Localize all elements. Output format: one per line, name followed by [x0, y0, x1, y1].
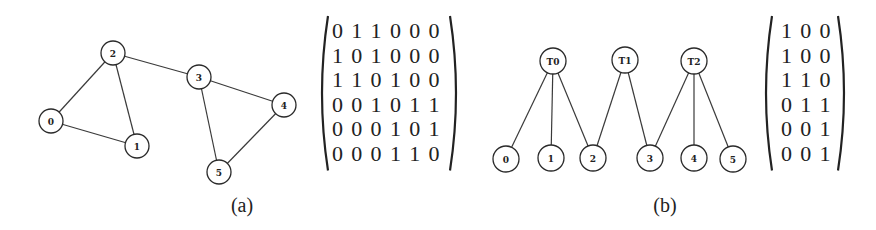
matrix-cell: 1 [351, 18, 362, 43]
node-label: 2 [110, 49, 116, 59]
right-paren [838, 16, 844, 171]
matrix-cell: 0 [409, 43, 420, 68]
matrix-cell: 0 [429, 18, 440, 43]
matrix-cell: 1 [429, 116, 440, 141]
matrix-cell: 0 [429, 141, 440, 166]
matrix-cell: 1 [371, 43, 382, 68]
matrix-cell: 1 [390, 67, 401, 92]
edge-T1-3 [625, 60, 650, 158]
matrix-cell: 0 [781, 116, 792, 141]
matrix-cell: 1 [800, 92, 811, 117]
matrix-cell: 0 [371, 141, 382, 166]
matrix-cell: 0 [800, 18, 811, 43]
matrix-cell: 1 [390, 141, 401, 166]
node-3: 3 [637, 145, 663, 171]
matrix-cell: 0 [781, 92, 792, 117]
node-1: 1 [125, 134, 149, 158]
node-label: 4 [281, 101, 287, 111]
node-4: 4 [272, 93, 296, 117]
matrix-cell: 0 [800, 141, 811, 166]
matrix-cell: 0 [371, 67, 382, 92]
matrix-cell: 0 [820, 18, 831, 43]
node-0: 0 [493, 146, 519, 172]
node-label: 3 [647, 154, 653, 164]
edge-T2-3 [650, 61, 694, 158]
matrix-cell: 0 [800, 43, 811, 68]
node-label: T1 [619, 56, 632, 66]
matrix-cell: 0 [781, 141, 792, 166]
matrix-cell: 0 [390, 18, 401, 43]
matrix-cell: 1 [781, 18, 792, 43]
edge-T0-2 [553, 61, 593, 158]
node-3: 3 [187, 65, 211, 89]
edge-0-1 [51, 121, 137, 146]
node-label: 2 [590, 154, 596, 164]
node-1: 1 [538, 145, 564, 171]
edge-4-5 [219, 105, 284, 172]
node-label: 5 [216, 168, 222, 178]
matrix-cell: 1 [429, 92, 440, 117]
matrix-cell: 0 [820, 43, 831, 68]
matrix-cell: 1 [820, 141, 831, 166]
edge-3-4 [199, 77, 284, 105]
edge-T1-2 [593, 60, 625, 158]
node-label: 0 [48, 117, 54, 127]
matrix-cell: 1 [332, 67, 343, 92]
matrix-cell: 1 [332, 43, 343, 68]
caption-a: (a) [231, 194, 253, 217]
matrix-cell: 1 [800, 67, 811, 92]
node-T0: T0 [540, 48, 566, 74]
edge-0-2 [51, 53, 113, 121]
matrix-cell: 1 [390, 116, 401, 141]
matrix-cell: 0 [371, 116, 382, 141]
matrix-cell: 1 [351, 67, 362, 92]
matrix-cell: 0 [820, 67, 831, 92]
matrix-cell: 0 [351, 43, 362, 68]
matrix-cell: 1 [371, 18, 382, 43]
node-label: T0 [547, 57, 560, 67]
graph-a-nodes: 012345 [39, 41, 296, 184]
edge-2-3 [113, 53, 199, 77]
matrix-cell: 0 [409, 67, 420, 92]
matrix-cell: 0 [332, 116, 343, 141]
matrix-cell: 1 [820, 116, 831, 141]
matrix-cell: 0 [390, 43, 401, 68]
matrix-cell: 0 [332, 18, 343, 43]
adjacency-matrix-a: 011000101000110100001011000101000110 [322, 16, 456, 171]
matrix-cell: 0 [332, 92, 343, 117]
graph-figure: 012345 011000101000110100001011000101000… [0, 0, 876, 230]
node-5: 5 [207, 160, 231, 184]
left-paren [766, 16, 772, 171]
edge-T0-0 [506, 61, 553, 159]
node-label: 4 [691, 154, 697, 164]
matrix-cell: 0 [351, 116, 362, 141]
graph-a-edges [51, 53, 284, 172]
matrix-cell: 0 [332, 141, 343, 166]
matrix-cell: 1 [409, 141, 420, 166]
node-5: 5 [720, 146, 746, 172]
node-0: 0 [39, 109, 63, 133]
matrix-cell: 0 [800, 116, 811, 141]
matrix-cell: 0 [429, 43, 440, 68]
incidence-matrix-b: 100100110011001001 [766, 16, 844, 171]
node-2: 2 [101, 41, 125, 65]
matrix-cell: 1 [409, 92, 420, 117]
graph-b-nodes: T0T1T2012345 [493, 47, 746, 172]
node-label: 1 [548, 154, 554, 164]
node-T1: T1 [612, 47, 638, 73]
matrix-cell: 1 [371, 92, 382, 117]
matrix-cell: 0 [429, 67, 440, 92]
matrix-cell: 1 [820, 92, 831, 117]
graph-b-edges [506, 60, 733, 159]
matrix-cell: 0 [409, 116, 420, 141]
right-paren [450, 16, 456, 171]
node-T2: T2 [681, 48, 707, 74]
node-label: 5 [730, 155, 736, 165]
matrix-cell: 0 [390, 92, 401, 117]
matrix-cell: 1 [781, 67, 792, 92]
node-label: 1 [134, 142, 140, 152]
node-label: T2 [688, 57, 701, 67]
edge-3-5 [199, 77, 219, 172]
left-paren [322, 16, 328, 171]
node-4: 4 [681, 145, 707, 171]
